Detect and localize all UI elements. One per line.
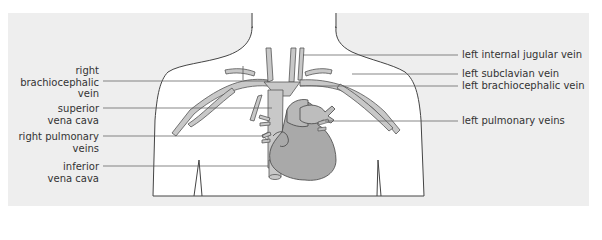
label-left-subclavian-vein: left subclavian vein — [462, 68, 559, 80]
label-left-pulmonary-veins: left pulmonary veins — [462, 115, 565, 127]
label-inferior-vena-cava: inferior vena cava — [16, 161, 99, 184]
label-right-pulmonary-veins: right pulmonary veins — [16, 131, 99, 154]
label-left-internal-jugular-vein: left internal jugular vein — [462, 49, 582, 61]
label-right-brachiocephalic-vein: right brachiocephalic vein — [16, 65, 99, 100]
label-left-brachiocephalic-vein: left brachiocephalic vein — [462, 80, 585, 92]
label-superior-vena-cava: superior vena cava — [16, 103, 99, 126]
